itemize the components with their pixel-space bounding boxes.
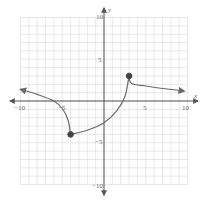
tick-label-x-neg10: −10	[14, 104, 25, 112]
x-axis-label: x	[193, 92, 198, 100]
y-axis-label: y	[107, 6, 112, 14]
tick-label-y-pos10: 10	[96, 13, 104, 21]
tick-label-x-pos5: 5	[143, 104, 147, 112]
tick-label-y-neg10: −10	[92, 182, 103, 190]
function-curves	[21, 76, 185, 134]
curve-middle-branch	[71, 76, 129, 134]
coordinate-graph: x y −10 −5 5 10 10 5 −5 −10	[0, 0, 207, 205]
tick-label-y-neg5: −5	[95, 138, 103, 146]
tick-label-y-pos5: 5	[98, 56, 102, 64]
closed-endpoints	[68, 73, 132, 137]
closed-dot	[68, 132, 74, 138]
closed-dot	[126, 73, 132, 79]
tick-label-x-pos10: 10	[182, 104, 190, 112]
